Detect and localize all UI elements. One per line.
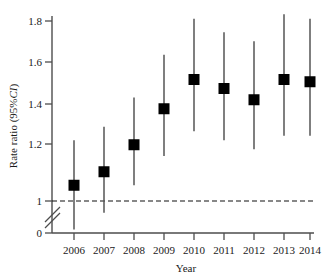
y-tick-label-1: 1 bbox=[37, 195, 43, 207]
y-tick-label-0: 0 bbox=[37, 227, 43, 239]
y-axis-title: Rate ratio (95%CI) bbox=[7, 84, 20, 169]
x-tick-label-2014: 2014 bbox=[299, 244, 322, 256]
chart-figure: 0 1 1.2 1.4 1.6 1.8 2006 20 bbox=[0, 0, 322, 279]
x-axis-tick-labels: 2006 2007 2008 2009 2010 2011 2012 2013 … bbox=[63, 244, 322, 256]
y-axis-ticks bbox=[45, 21, 52, 233]
x-tick-label-2009: 2009 bbox=[153, 244, 176, 256]
y-axis-title-close: ) bbox=[7, 84, 20, 88]
x-axis-ticks bbox=[74, 233, 310, 240]
data-point-2008 bbox=[129, 139, 140, 150]
rate-ratio-error-bar-chart: 0 1 1.2 1.4 1.6 1.8 2006 20 bbox=[0, 0, 322, 279]
data-point-2011 bbox=[219, 83, 230, 94]
x-tick-label-2008: 2008 bbox=[123, 244, 146, 256]
data-point-2014 bbox=[305, 76, 316, 87]
data-point-2012 bbox=[249, 94, 260, 105]
y-tick-label-1-6: 1.6 bbox=[28, 56, 42, 68]
x-tick-label-2011: 2011 bbox=[213, 244, 235, 256]
data-series-rate-ratio bbox=[69, 14, 316, 229]
data-point-2006 bbox=[69, 180, 80, 191]
x-tick-label-2013: 2013 bbox=[273, 244, 296, 256]
data-point-2007 bbox=[99, 166, 110, 177]
data-point-2009 bbox=[159, 103, 170, 114]
y-tick-label-1-8: 1.8 bbox=[28, 15, 42, 27]
y-tick-label-1-4: 1.4 bbox=[28, 98, 42, 110]
y-tick-label-1-2: 1.2 bbox=[28, 138, 42, 150]
x-axis-title: Year bbox=[176, 262, 197, 274]
data-point-2013 bbox=[279, 74, 290, 85]
x-tick-label-2010: 2010 bbox=[183, 244, 206, 256]
data-point-2010 bbox=[189, 74, 200, 85]
x-tick-label-2007: 2007 bbox=[93, 244, 116, 256]
y-axis-title-plain: Rate ratio (95% bbox=[7, 99, 20, 169]
x-tick-label-2012: 2012 bbox=[243, 244, 265, 256]
x-tick-label-2006: 2006 bbox=[63, 244, 86, 256]
svg-text:Rate ratio (95%CI): Rate ratio (95%CI) bbox=[7, 84, 20, 169]
y-axis-tick-labels: 0 1 1.2 1.4 1.6 1.8 bbox=[28, 15, 42, 239]
